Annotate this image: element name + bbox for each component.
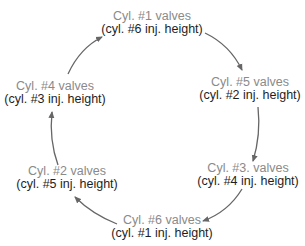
cycle-arrows xyxy=(0,0,305,246)
node-cyl-3-valves: Cyl. #3. valves (cyl. #4 inj. height) xyxy=(197,162,298,188)
node-cyl-1-valves: Cyl. #1 valves (cyl. #6 inj. height) xyxy=(101,10,202,36)
injector-height-label: (cyl. #3 inj. height) xyxy=(4,93,105,106)
injector-height-label: (cyl. #4 inj. height) xyxy=(197,175,298,188)
cylinder-adjustment-cycle-diagram: Cyl. #1 valves (cyl. #6 inj. height) Cyl… xyxy=(0,0,305,246)
node-cyl-6-valves: Cyl. #6 valves (cyl. #1 inj. height) xyxy=(111,214,212,240)
injector-height-label: (cyl. #5 inj. height) xyxy=(16,178,117,191)
injector-height-label: (cyl. #2 inj. height) xyxy=(199,89,300,102)
arrow-n5-to-n6 xyxy=(51,112,58,165)
arrow-n1-to-n2 xyxy=(205,33,242,70)
arrow-n2-to-n3 xyxy=(253,107,259,161)
arrow-n6-to-n1 xyxy=(68,37,102,74)
injector-height-label: (cyl. #1 inj. height) xyxy=(111,227,212,240)
node-cyl-2-valves: Cyl. #2 valves (cyl. #5 inj. height) xyxy=(16,165,117,191)
node-cyl-5-valves: Cyl. #5 valves (cyl. #2 inj. height) xyxy=(199,76,300,102)
node-cyl-4-valves: Cyl. #4 valves (cyl. #3 inj. height) xyxy=(4,80,105,106)
injector-height-label: (cyl. #6 inj. height) xyxy=(101,23,202,36)
